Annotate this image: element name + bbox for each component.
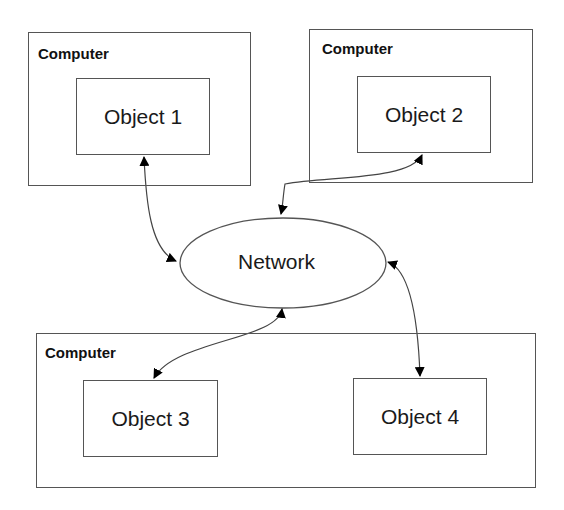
object-4-box: Object 4	[353, 378, 487, 455]
object-3-box: Object 3	[83, 380, 218, 457]
object-4-label: Object 4	[381, 405, 459, 429]
object-1-label: Object 1	[104, 105, 182, 129]
computer-label-3: Computer	[45, 344, 116, 361]
object-3-label: Object 3	[111, 407, 189, 431]
object-2-label: Object 2	[385, 103, 463, 127]
object-1-box: Object 1	[76, 78, 210, 155]
object-2-box: Object 2	[357, 76, 491, 153]
network-label: Network	[238, 250, 315, 274]
computer-label-2: Computer	[322, 40, 393, 57]
computer-label-1: Computer	[38, 45, 109, 62]
